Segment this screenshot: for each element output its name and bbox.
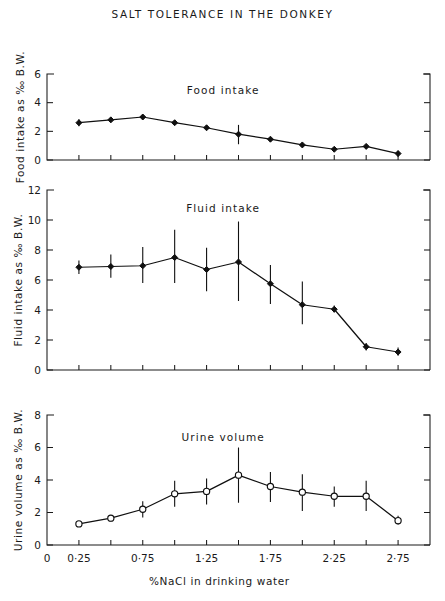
- panel-2-title: Fluid intake: [186, 202, 260, 214]
- panel-2-ytick-label: 4: [34, 304, 41, 316]
- panel-1-marker: [267, 136, 273, 142]
- xtick-label: 1·75: [259, 552, 282, 564]
- panel-1-ytick-label: 6: [34, 68, 41, 80]
- xtick-label: 1·25: [195, 552, 218, 564]
- panel-1-marker: [395, 151, 401, 157]
- panel-3-marker: [140, 506, 146, 512]
- panel-3-ytick-label: 4: [34, 474, 41, 486]
- panel-2-ylabel: Fluid intake as ‰ B.W.: [12, 213, 24, 346]
- panel-2-ytick-label: 2: [34, 334, 41, 346]
- panel-1-ytick-label: 0: [34, 154, 41, 166]
- panel-2-marker: [140, 263, 146, 269]
- panel-1-marker: [172, 120, 178, 126]
- panel-3-marker: [76, 521, 82, 527]
- panel-1-marker: [76, 120, 82, 126]
- panel-1-marker: [331, 146, 337, 152]
- xtick-label: 0: [44, 552, 51, 564]
- panel-1-ytick-label: 2: [34, 125, 41, 137]
- panel-3-marker: [172, 491, 178, 497]
- panel-2-marker: [172, 255, 178, 261]
- panel-3-urine-volume: 02468Urine volumeUrine volume as ‰ B.W.: [12, 409, 430, 552]
- panel-2-fluid-intake: 024681012Fluid intakeFluid intake as ‰ B…: [12, 184, 430, 376]
- panel-3-ytick-label: 2: [34, 506, 41, 518]
- panel-3-marker: [395, 518, 401, 524]
- panel-3-ylabel: Urine volume as ‰ B.W.: [12, 409, 24, 552]
- panel-3-marker: [108, 515, 114, 521]
- panel-3-marker: [203, 488, 209, 494]
- panel-3-ytick-label: 0: [34, 539, 41, 551]
- panel-1-marker: [204, 125, 210, 131]
- panel-1-marker: [236, 131, 242, 137]
- panel-1-marker: [108, 117, 114, 123]
- panel-2-marker: [76, 264, 82, 270]
- panel-1-marker: [363, 143, 369, 149]
- panel-2-ytick-label: 10: [28, 214, 41, 226]
- xtick-label: 0·75: [131, 552, 154, 564]
- panel-1-axis-right: [423, 74, 430, 160]
- panel-3-ytick-label: 8: [34, 409, 41, 421]
- xtick-label: 2·75: [386, 552, 409, 564]
- panel-3-marker: [235, 472, 241, 478]
- panel-1-marker: [140, 114, 146, 120]
- panel-1-title: Food intake: [187, 84, 260, 96]
- panel-2-marker: [204, 267, 210, 273]
- panel-3-ytick-label: 6: [34, 441, 41, 453]
- figure-title: SALT TOLERANCE IN THE DONKEY: [0, 8, 445, 20]
- panel-2-ytick-label: 8: [34, 244, 41, 256]
- panel-1-food-intake: 0246Food intakeFood intake as ‰ B.W.: [14, 51, 430, 183]
- figure-root: SALT TOLERANCE IN THE DONKEY 0246Food in…: [0, 0, 445, 601]
- xtick-label: 2·25: [323, 552, 346, 564]
- panel-1-ytick-label: 4: [34, 96, 41, 108]
- panel-2-marker: [395, 349, 401, 355]
- panel-1-marker: [299, 142, 305, 148]
- panel-3-title: Urine volume: [181, 431, 264, 443]
- panel-2-ytick-label: 6: [34, 274, 41, 286]
- chart-canvas: 0246Food intakeFood intake as ‰ B.W.0246…: [0, 0, 445, 601]
- panel-2-marker: [108, 264, 114, 270]
- panel-3-marker: [267, 483, 273, 489]
- panel-2-ytick-label: 0: [34, 364, 41, 376]
- xtick-label: 0·25: [67, 552, 90, 564]
- panel-3-marker: [299, 489, 305, 495]
- x-axis-title: %NaCl in drinking water: [149, 575, 290, 587]
- panel-1-ylabel: Food intake as ‰ B.W.: [14, 51, 26, 183]
- panel-2-ytick-label: 12: [28, 184, 41, 196]
- panel-3-marker: [363, 493, 369, 499]
- x-axis-labels: 00·250·751·251·752·252·75%NaCl in drinki…: [44, 552, 410, 587]
- panel-3-marker: [331, 493, 337, 499]
